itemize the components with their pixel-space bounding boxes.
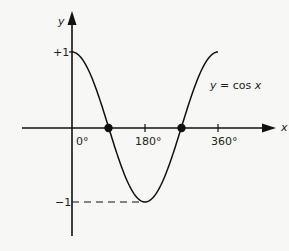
- zero-crossing-90-point: [104, 124, 112, 132]
- x-axis-label: x: [280, 121, 288, 134]
- plus-one-label: +1: [53, 46, 69, 59]
- x-axis-arrow-icon: [262, 124, 276, 133]
- cosine-graph: y x +1 −1 0° 180° 360° y = cos x: [0, 0, 289, 251]
- deg-180-label: 180°: [135, 135, 162, 148]
- chart-svg: y x +1 −1 0° 180° 360° y = cos x: [0, 0, 289, 251]
- function-label-x: x: [254, 79, 262, 92]
- minus-one-label: −1: [55, 196, 71, 209]
- y-axis-label: y: [57, 15, 65, 28]
- function-label-eq: = cos: [217, 79, 255, 92]
- zero-deg-label: 0°: [76, 135, 89, 148]
- deg-360-label: 360°: [211, 135, 238, 148]
- zero-crossing-270-point: [177, 124, 185, 132]
- y-axis-arrow-icon: [68, 11, 77, 25]
- function-label: y = cos x: [209, 79, 262, 92]
